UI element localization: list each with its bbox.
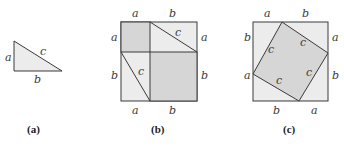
b-bottom-a: a: [132, 104, 139, 117]
b-left-b: b: [111, 69, 118, 82]
label-hypotenuse-c: c: [40, 45, 46, 58]
caption-c: (c): [283, 123, 296, 136]
c-bottom-b: b: [273, 104, 280, 117]
c-inner-c-right: c: [306, 66, 312, 79]
c-left-b: b: [244, 31, 251, 44]
caption-b: (b): [151, 123, 165, 136]
b-left-a: a: [111, 31, 118, 44]
square-a-squared: [121, 22, 150, 52]
b-right-a: a: [201, 31, 208, 44]
b-top-b: b: [169, 7, 176, 20]
c-top-b: b: [302, 7, 309, 20]
label-side-b: b: [34, 73, 41, 86]
pythagorean-diagram: a b c (a) a b a b a b a b c c (b) a b b …: [0, 0, 344, 146]
c-inner-c-left: c: [268, 43, 274, 56]
c-top-a: a: [264, 7, 271, 20]
b-inner-c-2: c: [138, 65, 144, 78]
c-inner-c-bottom: c: [276, 74, 282, 87]
c-bottom-a: a: [311, 104, 318, 117]
label-side-a: a: [5, 51, 12, 64]
figure-c: a b b a b a a b c c c c (c): [244, 7, 339, 136]
b-top-a: a: [132, 7, 139, 20]
figure-a: a b c (a): [5, 41, 62, 136]
c-right-b: b: [332, 69, 339, 82]
c-left-a: a: [244, 69, 251, 82]
right-triangle: [14, 41, 62, 71]
b-right-b: b: [201, 69, 208, 82]
figure-b: a b a b a b a b c c (b): [111, 7, 208, 136]
caption-a: (a): [27, 123, 40, 136]
b-inner-c-1: c: [175, 26, 181, 39]
b-bottom-b: b: [169, 104, 176, 117]
c-inner-c-top: c: [300, 36, 306, 49]
square-b-squared: [150, 52, 197, 101]
c-right-a: a: [332, 31, 339, 44]
